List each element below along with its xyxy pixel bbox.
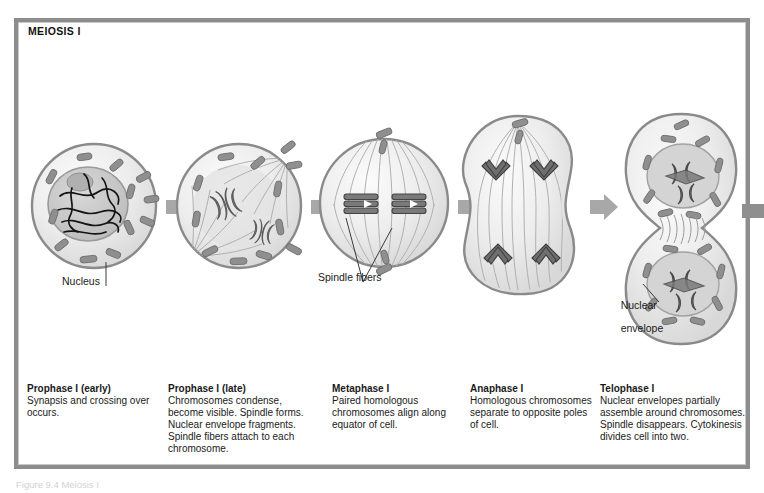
caption-prophase-1-late: Prophase I (late) Chromosomes condense, …	[168, 383, 320, 455]
meiosis-figure: MEIOSIS I	[0, 0, 764, 493]
caption-body: Chromosomes condense, become visible. Sp…	[168, 395, 320, 455]
caption-body: Homologous chromosomes separate to oppos…	[470, 395, 598, 431]
stage-captions: Prophase I (early) Synapsis and crossing…	[0, 383, 764, 473]
callout-label-nuclear-envelope: Nuclear envelope	[609, 288, 663, 346]
arrow-4	[590, 194, 618, 220]
caption-body: Paired homologous chromosomes align alon…	[332, 395, 462, 431]
cell-metaphase-1	[320, 126, 448, 282]
cell-prophase-1-late	[174, 140, 306, 268]
caption-body: Synapsis and crossing over occurs.	[27, 395, 165, 419]
caption-body: Nuclear envelopes partially assemble aro…	[600, 395, 752, 443]
caption-prophase-1-early: Prophase I (early) Synapsis and crossing…	[27, 383, 165, 419]
cell-anaphase-1	[463, 116, 574, 294]
caption-title: Metaphase I	[332, 383, 462, 395]
callout-label-nucleus: Nucleus	[62, 276, 100, 288]
caption-title: Prophase I (early)	[27, 383, 165, 395]
callout-nuclear-envelope-line-1: Nuclear	[621, 299, 657, 311]
caption-telophase-1: Telophase I Nuclear envelopes partially …	[600, 383, 752, 443]
caption-title: Prophase I (late)	[168, 383, 320, 395]
caption-metaphase-1: Metaphase I Paired homologous chromosome…	[332, 383, 462, 431]
caption-anaphase-1: Anaphase I Homologous chromosomes separa…	[470, 383, 598, 431]
cell-prophase-1-early	[32, 144, 159, 286]
figure-footnote: Figure 9.4 Meiosis I	[16, 479, 99, 490]
callout-label-spindle-fibers: Spindle fibers	[318, 272, 382, 284]
arrow-5-clipped	[742, 204, 764, 218]
callout-nuclear-envelope-line-2: envelope	[621, 322, 664, 334]
caption-title: Telophase I	[600, 383, 752, 395]
caption-title: Anaphase I	[470, 383, 598, 395]
